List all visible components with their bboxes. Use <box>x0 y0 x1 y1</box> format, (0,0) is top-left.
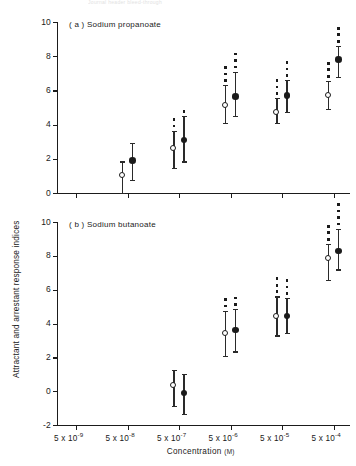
significance-star-b-arrestant-3-1 <box>234 297 237 300</box>
errorbar-cap-bottom-a-arrestant-3 <box>233 116 238 117</box>
errorbar-cap-top-b-arrestant-3 <box>233 309 238 310</box>
marker-filled-circle-a-4 <box>284 92 290 98</box>
significance-star-a-arrestant-5-0 <box>337 40 340 43</box>
significance-star-a-attractant-4-0 <box>276 92 279 95</box>
marker-filled-circle-a-5 <box>335 56 341 62</box>
panel-a-x-axis <box>57 193 350 194</box>
errorbar-cap-bottom-b-attractant-4 <box>275 335 280 336</box>
significance-star-a-arrestant-5-2 <box>337 27 340 30</box>
significance-star-a-attractant-2-0 <box>173 125 176 128</box>
panel-b-x-tick-1 <box>128 425 129 430</box>
errorbar-cap-top-a-attractant-3 <box>223 85 228 86</box>
panel-b-y-tick-label-10: 10 <box>31 217 51 227</box>
significance-star-b-arrestant-5-1 <box>337 216 340 219</box>
x-axis-tick-label-5: 5 x 10-4 <box>312 431 341 443</box>
panel-b-y-tick-label--2: -2 <box>31 420 51 430</box>
errorbar-cap-top-b-arrestant-2 <box>182 374 187 375</box>
errorbar-cap-bottom-b-attractant-3 <box>223 356 228 357</box>
panel-a-x-tick-1 <box>128 193 129 198</box>
marker-open-circle-a-3 <box>222 102 228 108</box>
significance-star-a-attractant-5-0 <box>327 75 330 78</box>
significance-star-a-arrestant-3-0 <box>234 66 237 69</box>
panel-b-x-tick-5 <box>334 425 335 430</box>
significance-star-b-arrestant-5-3 <box>337 203 340 206</box>
significance-star-b-attractant-5-1 <box>327 231 330 234</box>
x-axis-title-text: Concentration <box>167 447 224 456</box>
panel-b-y-tick-label-6: 6 <box>31 284 51 294</box>
significance-star-b-attractant-5-2 <box>327 225 330 228</box>
significance-star-a-attractant-2-1 <box>173 118 176 121</box>
errorbar-cap-top-b-arrestant-5 <box>336 229 341 230</box>
errorbar-cap-bottom-a-attractant-1 <box>120 193 125 194</box>
errorbar-cap-top-a-arrestant-2 <box>182 116 187 117</box>
x-axis-tick-label-1: 5 x 10-8 <box>106 431 135 443</box>
errorbar-cap-bottom-b-arrestant-3 <box>233 351 238 352</box>
significance-star-a-arrestant-4-1 <box>286 68 289 71</box>
errorbar-cap-top-a-attractant-5 <box>326 81 331 82</box>
errorbar-cap-top-a-arrestant-5 <box>336 46 341 47</box>
errorbar-cap-bottom-a-arrestant-4 <box>285 112 290 113</box>
significance-star-a-attractant-5-2 <box>327 62 330 65</box>
panel-a-y-tick-6 <box>53 90 57 91</box>
panel-b-y-tick-label-8: 8 <box>31 250 51 260</box>
significance-star-a-arrestant-4-2 <box>286 61 289 64</box>
panel-b-y-tick--2 <box>53 425 57 426</box>
panel-b-y-tick-2 <box>53 357 57 358</box>
x-axis-title-unit: (M) <box>224 448 234 455</box>
errorbar-cap-top-b-arrestant-4 <box>285 298 290 299</box>
panel-b-x-axis <box>57 425 350 426</box>
significance-star-b-attractant-4-0 <box>276 290 279 293</box>
significance-star-a-attractant-4-2 <box>276 79 279 82</box>
panel-a-y-tick-label-0: 0 <box>31 188 51 198</box>
panel-a-label: ( a ) Sodium propanoate <box>69 20 161 29</box>
errorbar-cap-bottom-b-attractant-2 <box>172 406 177 407</box>
x-axis-title: Concentration (M) <box>167 447 235 456</box>
significance-star-b-arrestant-3-0 <box>234 303 237 306</box>
panel-a-y-tick-label-4: 4 <box>31 119 51 129</box>
significance-star-a-attractant-4-1 <box>276 86 279 89</box>
significance-star-a-arrestant-2-0 <box>183 110 186 113</box>
panel-b-x-tick-4 <box>282 425 283 430</box>
marker-filled-circle-a-3 <box>232 93 238 99</box>
marker-open-circle-b-3 <box>222 330 228 336</box>
panel-a-y-tick-label-6: 6 <box>31 85 51 95</box>
errorbar-cap-bottom-a-attractant-4 <box>275 123 280 124</box>
errorbar-cap-bottom-b-attractant-5 <box>326 280 331 281</box>
panel-a-x-tick-0 <box>76 193 77 198</box>
significance-star-a-arrestant-5-1 <box>337 33 340 36</box>
errorbar-cap-bottom-b-arrestant-4 <box>285 333 290 334</box>
panel-a-x-tick-3 <box>231 193 232 198</box>
significance-star-b-arrestant-4-0 <box>286 292 289 295</box>
marker-open-circle-a-1 <box>119 172 125 178</box>
errorbar-cap-top-a-arrestant-1 <box>130 143 135 144</box>
significance-star-b-attractant-4-1 <box>276 284 279 287</box>
errorbar-cap-top-a-attractant-4 <box>275 98 280 99</box>
marker-open-circle-b-4 <box>273 313 279 319</box>
figure-root: Journal header bleed-through Attractant … <box>0 0 356 466</box>
panel-b-x-tick-2 <box>179 425 180 430</box>
marker-open-circle-a-2 <box>170 145 176 151</box>
errorbar-cap-top-a-arrestant-4 <box>285 80 290 81</box>
panel-a-y-tick-label-2: 2 <box>31 153 51 163</box>
ghost-header-artifact: Journal header bleed-through <box>88 0 278 6</box>
significance-star-a-arrestant-3-2 <box>234 53 237 56</box>
panel-a-y-tick-8 <box>53 56 57 57</box>
significance-star-b-attractant-5-0 <box>327 238 330 241</box>
panel-a-y-axis <box>57 22 58 194</box>
panel-b-label: ( b ) Sodium butanoate <box>69 220 156 229</box>
significance-star-b-arrestant-5-2 <box>337 210 340 213</box>
errorbar-cap-bottom-a-arrestant-5 <box>336 77 341 78</box>
significance-star-a-attractant-5-1 <box>327 68 330 71</box>
errorbar-b-attractant-5 <box>328 244 329 280</box>
marker-open-circle-b-5 <box>325 255 331 261</box>
panel-b-y-tick-label-2: 2 <box>31 352 51 362</box>
marker-filled-circle-a-2 <box>181 137 187 143</box>
errorbar-cap-bottom-a-attractant-3 <box>223 123 228 124</box>
errorbar-cap-top-a-attractant-1 <box>120 161 125 162</box>
panel-a-y-tick-label-8: 8 <box>31 51 51 61</box>
panel-a-y-tick-2 <box>53 159 57 160</box>
significance-star-a-attractant-3-2 <box>224 66 227 69</box>
panel-b-y-tick-4 <box>53 324 57 325</box>
significance-star-b-attractant-3-0 <box>224 305 227 308</box>
panel-a-x-tick-2 <box>179 193 180 198</box>
